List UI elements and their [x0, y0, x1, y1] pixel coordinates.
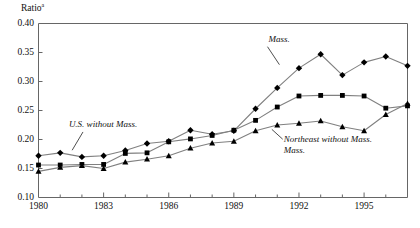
x-axis-tick-label: 1980 — [19, 201, 59, 211]
data-point-marker — [383, 53, 389, 59]
data-point-marker — [36, 163, 41, 168]
annotation-leader-line — [272, 129, 283, 139]
data-point-marker — [253, 118, 258, 123]
data-point-marker — [123, 151, 128, 156]
x-axis-tick-label: 1995 — [344, 201, 384, 211]
series-annotation-line: Mass. — [284, 145, 372, 156]
series-annotation-label: Northeast without Mass.Mass. — [284, 134, 372, 156]
plot-frame — [39, 24, 408, 198]
x-axis-tick-label: 1992 — [279, 201, 319, 211]
annotation-leader-line — [72, 132, 83, 150]
data-point-marker — [318, 118, 324, 124]
x-axis-tick-label: 1986 — [149, 201, 189, 211]
chart-container: Ratioa 0.400.350.300.250.200.150.1019801… — [0, 0, 420, 228]
data-point-marker — [404, 63, 410, 69]
data-point-marker — [340, 93, 345, 98]
plot-svg — [0, 0, 420, 228]
y-axis-tick-label: 0.40 — [0, 18, 34, 28]
series-annotation-line: Mass. — [269, 34, 290, 45]
y-axis-tick-label: 0.30 — [0, 76, 34, 86]
annotation-leader-line — [267, 47, 279, 65]
y-axis-tick-label: 0.35 — [0, 47, 34, 57]
series-annotation-label: U.S. without Mass. — [69, 119, 137, 130]
series-annotation-line: Northeast without Mass. — [284, 134, 372, 145]
data-point-marker — [383, 106, 388, 111]
data-point-marker — [405, 100, 411, 106]
data-point-marker — [188, 137, 193, 142]
x-axis-tick-label: 1983 — [84, 201, 124, 211]
x-axis-tick-label: 1989 — [214, 201, 254, 211]
data-point-marker — [383, 111, 389, 117]
series-annotation-label: Mass. — [269, 34, 290, 45]
data-point-marker — [275, 105, 280, 110]
data-point-marker — [361, 59, 367, 65]
data-point-marker — [297, 94, 302, 99]
y-axis-tick-label: 0.25 — [0, 105, 34, 115]
series-annotation-line: U.S. without Mass. — [69, 119, 137, 130]
y-axis-tick-label: 0.20 — [0, 134, 34, 144]
data-point-marker — [35, 153, 41, 159]
data-point-marker — [79, 154, 85, 160]
data-point-marker — [166, 139, 171, 144]
data-point-marker — [210, 133, 215, 138]
data-point-marker — [318, 93, 323, 98]
data-point-marker — [187, 127, 193, 133]
data-point-marker — [362, 94, 367, 99]
data-point-marker — [100, 153, 106, 159]
data-point-marker — [57, 150, 63, 156]
data-point-marker — [144, 140, 150, 146]
y-axis-tick-label: 0.15 — [0, 163, 34, 173]
data-point-marker — [145, 150, 150, 155]
data-point-marker — [231, 128, 236, 133]
